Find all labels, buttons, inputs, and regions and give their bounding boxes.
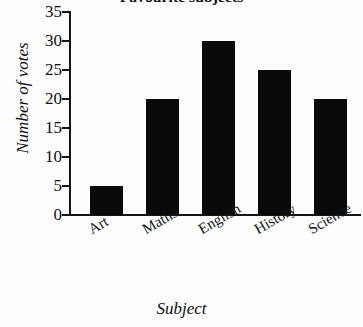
y-axis-tick <box>62 40 70 42</box>
y-axis-tick-label: 35 <box>10 3 62 20</box>
y-axis-tick <box>62 214 70 216</box>
bar-maths <box>146 99 179 215</box>
y-axis-title: Number of votes <box>13 23 33 173</box>
y-axis-tick <box>62 11 70 13</box>
y-axis-tick <box>62 98 70 100</box>
x-axis-label-art: Art <box>86 214 111 237</box>
y-axis-tick <box>62 156 70 158</box>
y-axis-tick <box>62 127 70 129</box>
bar-chart-figure: Favourite subjects 05101520253035 ArtMat… <box>0 0 363 327</box>
y-axis-tick-label: 5 <box>10 177 62 194</box>
y-axis-tick <box>62 185 70 187</box>
y-axis-tick-label: 0 <box>10 206 62 223</box>
bar-history <box>258 70 291 215</box>
bar-science <box>314 99 347 215</box>
y-axis-tick <box>62 69 70 71</box>
x-axis-title: Subject <box>0 299 363 319</box>
bar-english <box>202 41 235 215</box>
bar-art <box>90 186 123 215</box>
